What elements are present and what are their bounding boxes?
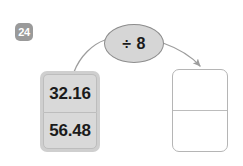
input-value-1: 32.16 xyxy=(49,85,91,102)
arrow-input-to-operation xyxy=(74,40,105,72)
question-number-label: 24 xyxy=(18,27,30,38)
arrow-operation-to-output xyxy=(163,43,200,66)
input-number-card: 32.16 56.48 xyxy=(40,71,100,152)
division-sign-icon: ÷ 8 xyxy=(122,36,146,52)
answer-card[interactable] xyxy=(172,69,228,152)
question-number-badge: 24 xyxy=(15,23,33,41)
input-cell-1: 32.16 xyxy=(43,74,97,112)
input-cell-2: 56.48 xyxy=(43,112,97,150)
input-value-2: 56.48 xyxy=(49,122,91,139)
operation-bubble: ÷ 8 xyxy=(104,24,164,63)
answer-cell-1[interactable] xyxy=(173,70,227,111)
answer-cell-2[interactable] xyxy=(173,111,227,152)
worksheet-question-panel: 24 ÷ 8 32.16 56.48 xyxy=(0,0,243,166)
